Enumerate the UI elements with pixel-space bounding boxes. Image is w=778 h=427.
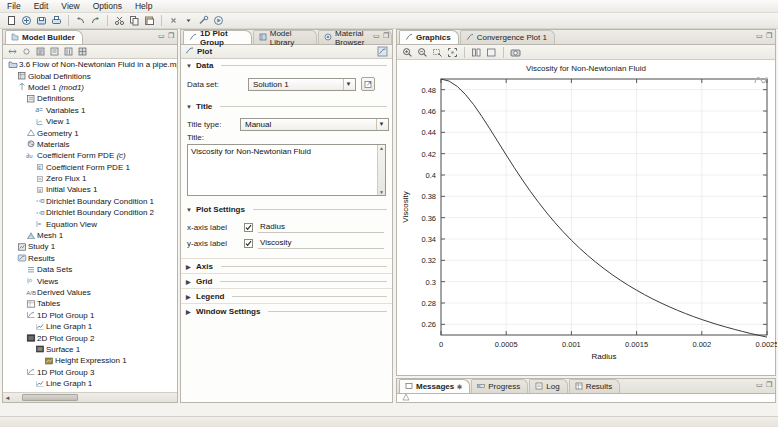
tree-item[interactable]: Global Definitions [3,70,177,81]
tab-graphics[interactable]: Graphics [399,30,459,44]
tab-progress[interactable]: Progress [471,379,528,393]
hide-icon[interactable] [49,46,60,57]
tab-1d-plot-group[interactable]: 1D Plot Group [183,30,252,44]
minimize-icon[interactable]: ▭ [756,381,763,389]
paste-icon[interactable] [143,14,156,27]
tree-item[interactable]: Geometry 1 [3,127,177,138]
tree-item[interactable]: View 1 [3,116,177,127]
plot-action-icon[interactable] [377,46,388,57]
y-axis-label-checkbox[interactable] [244,239,253,248]
compute-icon[interactable] [212,14,225,27]
scrollbar-thumb[interactable] [22,394,78,401]
tree-item[interactable]: Materials [3,139,177,150]
tree-item[interactable]: uInitial Values 1 [3,184,177,195]
transparency-icon[interactable] [485,46,498,59]
show-icon[interactable] [35,46,46,57]
open-icon[interactable] [20,14,33,27]
tree-item[interactable]: Study 1 [3,241,177,252]
tree-item[interactable]: 3.6 Flow of Non-Newtonian Fluid in a pip… [3,59,177,70]
tree-item[interactable]: Surface 1 [3,344,177,355]
go-to-source-icon[interactable] [361,77,375,91]
menu-item-help[interactable]: Help [134,1,153,11]
maximize-icon[interactable]: ❐ [168,32,174,40]
tab-convergence-plot-1[interactable]: Convergence Plot 1 [460,30,555,44]
minimize-icon[interactable]: ▭ [158,32,165,40]
data-set-select[interactable]: Solution 1 ▼ [248,78,356,91]
section-header-data[interactable]: ▼ Data [181,59,392,72]
tree-item[interactable]: Data Sets [3,264,177,275]
tab-log[interactable]: Log [529,379,567,393]
undo-icon[interactable] [74,14,87,27]
title-textarea-scrollbar[interactable]: ▲ ▼ [377,145,385,195]
tree-item[interactable]: 1D Plot Group 3 [3,367,177,378]
tab-model-library[interactable]: Model Library [253,30,317,44]
minimize-icon[interactable]: ▭ [373,32,380,40]
menu-item-edit[interactable]: Edit [33,1,50,11]
build-icon[interactable] [197,14,210,27]
cut-icon[interactable] [113,14,126,27]
collapse-icon[interactable] [7,46,18,57]
chevron-down-icon[interactable] [182,14,195,27]
zoom-icon[interactable] [77,46,88,57]
tree-item[interactable]: a=Variables 1 [3,105,177,116]
tree-item[interactable]: Export [3,389,177,391]
tab-messages[interactable]: Messages ✱ [399,379,470,393]
title-textarea[interactable]: Viscosity for Non-Newtonian Fluid ▲ ▼ [187,144,386,196]
new-icon[interactable] [5,14,18,27]
section-header-plot-settings[interactable]: ▼ Plot Settings [181,203,392,216]
maximize-icon[interactable]: ❐ [766,32,772,40]
model-tree-horizontal-scrollbar[interactable]: ◄ [3,392,177,402]
chart-canvas[interactable]: Viscosity for Non-Newtonian Fluid 0.260.… [397,61,775,375]
tab-model-builder[interactable]: Model Builder [5,30,83,44]
tree-item[interactable]: Mesh 1 [3,230,177,241]
tree-item[interactable]: Results [3,253,177,264]
title-type-select[interactable]: Manual ▼ [240,118,389,131]
menu-item-file[interactable]: File [6,1,22,11]
maximize-icon[interactable]: ❐ [766,381,772,389]
save-icon[interactable] [35,14,48,27]
section-header-title[interactable]: ▼ Title [181,100,392,113]
tree-item[interactable]: 2D Plot Group 2 [3,332,177,343]
tree-item[interactable]: Dirichlet Boundary Condition 2 [3,207,177,218]
section-header-window-settings[interactable]: ▶Window Settings [181,303,392,318]
menu-item-options[interactable]: Options [92,1,123,11]
section-header-legend[interactable]: ▶Legend [181,288,392,303]
tree-item[interactable]: Views [3,275,177,286]
scene-light-icon[interactable] [470,46,483,59]
maximize-icon[interactable]: ❐ [383,32,389,40]
tree-item[interactable]: A/BDerived Values [3,287,177,298]
tree-item[interactable]: Height Expression 1 [3,355,177,366]
zoom-extents-icon[interactable] [446,46,459,59]
tab-pin-icon[interactable]: ✱ [457,383,462,390]
zoom-in-icon[interactable] [401,46,414,59]
expand-icon[interactable] [21,46,32,57]
copy-icon[interactable] [128,14,141,27]
scroll-down-arrow[interactable]: ▼ [379,189,384,195]
model-tree[interactable]: 3.6 Flow of Non-Newtonian Fluid in a pip… [3,59,177,391]
scroll-left-arrow[interactable]: ◄ [3,395,12,401]
zoom-box-icon[interactable] [431,46,444,59]
options-icon[interactable] [63,46,74,57]
tree-item[interactable]: Line Graph 1 [3,378,177,389]
tree-item[interactable]: Definitions [3,93,177,104]
tree-item[interactable]: Dirichlet Boundary Condition 1 [3,196,177,207]
tree-item[interactable]: 1D Plot Group 1 [3,310,177,321]
y-axis-label-input[interactable]: Viscosity [258,237,384,249]
tree-item[interactable]: =Equation View [3,218,177,229]
x-axis-label-input[interactable]: Radius [258,221,384,233]
tree-item[interactable]: cCoefficient Form PDE 1 [3,162,177,173]
image-snapshot-icon[interactable] [509,46,522,59]
print-icon[interactable] [50,14,63,27]
tree-item[interactable]: ∂uCoefficient Form PDE (c) [3,150,177,161]
delete-icon[interactable] [167,14,180,27]
x-axis-label-checkbox[interactable] [244,223,253,232]
menu-item-view[interactable]: View [60,1,80,11]
tree-item[interactable]: Tables [3,298,177,309]
section-header-axis[interactable]: ▶Axis [181,258,392,273]
scroll-up-arrow[interactable]: ▲ [379,145,384,151]
tab-results[interactable]: Results [569,379,621,393]
section-header-grid[interactable]: ▶Grid [181,273,392,288]
zoom-out-icon[interactable] [416,46,429,59]
minimize-icon[interactable]: ▭ [756,32,763,40]
redo-icon[interactable] [89,14,102,27]
